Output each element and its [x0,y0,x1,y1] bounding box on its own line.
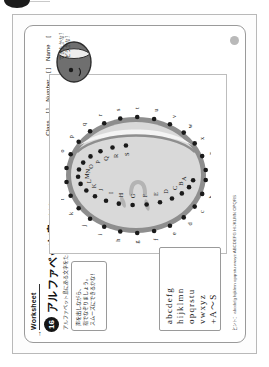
island-letter: l [61,198,65,200]
island-letter: H [117,192,124,197]
instruction-line: 指でなぞりましょう。 [82,266,89,326]
island-letter: L [85,179,92,183]
island-letter: D [162,189,169,194]
island-letter: p [67,135,74,138]
island-letter: N [83,168,90,173]
island-letter: k [67,211,74,215]
island-letter: t [133,107,140,109]
island-letter: g [133,240,140,243]
island-svg: abcdefghijklmnopqrstuvwxyz ABCDEFGHIJKLM… [61,100,211,250]
island-letter: w [185,123,192,128]
island-letter: P [93,160,100,164]
island-letter: d [185,222,192,226]
island-letter: K [90,183,97,188]
worksheet-tag-arrow-icon: → [35,330,42,337]
island-letter: r [96,114,103,116]
alphabet-row: opqrstu [186,254,197,324]
alphabet-island-illustration: abcdefghijklmnopqrstuvwxyz ABCDEFGHIJKLM… [61,100,211,250]
island-letter: j [80,224,87,227]
island-letter: h [114,238,121,242]
binding-hole-icon [4,0,30,8]
island-letter: x [198,136,205,140]
hint-footer: ヒント： abcdefg hijklmn opqrstu vwxyz ABCDE… [231,195,237,331]
island-letter: A [180,176,187,181]
alphabet-reference-chart: abcdefg hijklmn opqrstu vwxyz +A～S [159,247,221,331]
island-letter: v [170,114,177,118]
island-letter: C [170,186,177,190]
name-input[interactable]: [ [44,36,51,38]
island-letter: R [112,153,119,158]
alphabet-row: abcdefg [164,254,175,324]
island-letter: F [140,193,147,197]
island-letter: I [106,192,113,194]
worksheet-tag-rule [39,284,40,330]
island-path-dot [68,152,73,157]
island-path-dot [76,139,81,144]
island-letter: q [80,123,87,126]
island-letter: o [61,149,65,152]
alphabet-row: hijklmn [175,254,186,324]
island-letter: e [170,232,177,235]
island-path-dot [76,206,81,211]
island-letter: M [83,173,90,179]
worksheet-rotation-wrapper: → Worksheet 16 アルファベット島 小文字 a～ z 大文字 A～ … [24,25,246,343]
character-caption-line: できたかな？ [59,30,65,60]
island-letter: G [129,193,136,198]
worksheet-number-badge: 16 [44,317,59,332]
island-letter: J [97,188,104,191]
instruction-line: 声を出しながら、 [75,266,82,326]
scanned-page: → Worksheet 16 アルファベット島 小文字 a～ z 大文字 A～ … [12,14,257,354]
island-letter: c [198,210,205,213]
binding-rule [30,1,50,2]
island-letter: y [206,151,210,155]
number-input[interactable]: [ ] [44,68,51,73]
island-letter: f [152,238,159,241]
worksheet-tag-label: Worksheet [30,293,37,330]
island-letter: i [96,234,103,236]
island-path-dot [64,180,69,185]
island-path-dot [68,193,73,198]
alphabet-row: +A～S [208,254,219,324]
island-letter: S [123,152,130,156]
character-caption-line: どうかな？ [65,30,71,60]
island-path-dot [64,166,69,171]
instruction-line: スムーズにできるかな！ [89,266,96,326]
name-label: Name [44,44,51,61]
island-letter: E [152,192,159,196]
island-letter: b [206,195,210,198]
island-letter: O [87,164,94,169]
island-letter: u [152,109,159,112]
worksheet-sheet: → Worksheet 16 アルファベット島 小文字 a～ z 大文字 A～ … [24,25,246,343]
island-letter: s [114,108,121,111]
island-letter: Q [101,156,108,161]
character-caption: できたかな？ どうかな？ [59,30,71,60]
page-corner-dot [230,36,239,45]
instruction-box: 声を出しながら、 指でなぞりましょう。 スムーズにできるかな！ [71,261,107,331]
alphabet-row: vwxyz [197,254,208,324]
